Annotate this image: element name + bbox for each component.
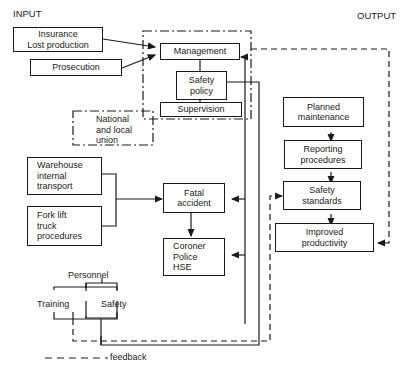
improved-productivity-box: Improvedproductivity xyxy=(275,223,374,252)
supervision-box: Supervision xyxy=(160,102,242,117)
input-heading: INPUT xyxy=(13,8,42,19)
management-box: Management xyxy=(160,43,240,60)
legend-feedback-label: feedback xyxy=(110,352,147,363)
prosecution-box: Prosecution xyxy=(30,59,122,76)
reporting-procedures-box: Reportingprocedures xyxy=(284,140,362,169)
safety-standards-box: Safetystandards xyxy=(283,181,361,210)
insurance-box: InsuranceLost production xyxy=(13,27,103,52)
fatal-accident-box: Fatalaccident xyxy=(163,183,225,213)
planned-maintenance-box: Plannedmaintenance xyxy=(283,97,364,127)
training-label: Training xyxy=(37,299,69,310)
union-label: Nationaland localunion xyxy=(96,114,132,146)
safety-policy-box: Safetypolicy xyxy=(176,71,227,100)
personnel-label: Personnel xyxy=(68,270,109,281)
coroner-box: CoronerPoliceHSE xyxy=(163,238,225,276)
warehouse-box: Warehouseinternaltransport xyxy=(27,157,102,195)
forklift-box: Fork lifttruckprocedures xyxy=(27,206,102,246)
output-heading: OUTPUT xyxy=(357,10,396,21)
safety-personnel-label: Safety xyxy=(101,299,127,310)
